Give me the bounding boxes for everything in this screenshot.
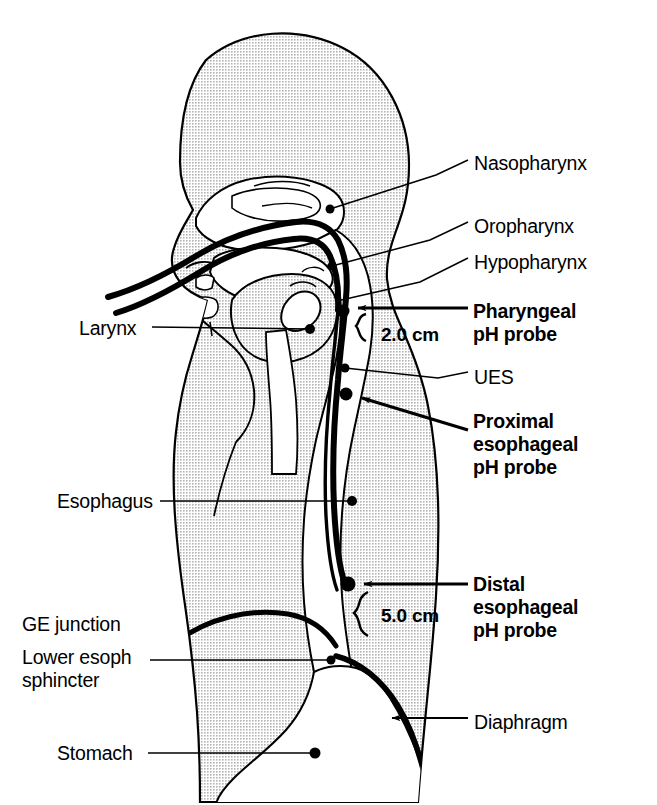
proximal-probe-marker bbox=[340, 388, 353, 401]
label-lower-esoph-sphincter: Lower esoph sphincter bbox=[22, 646, 131, 692]
label-larynx: Larynx bbox=[79, 317, 136, 340]
stomach-dot bbox=[310, 748, 321, 759]
label-distal-esophageal-ph-probe: Distal esophageal pH probe bbox=[473, 573, 578, 642]
esophagus-dot bbox=[347, 496, 357, 506]
label-hypopharynx: Hypopharynx bbox=[474, 251, 587, 274]
label-nasopharynx: Nasopharynx bbox=[474, 152, 587, 175]
label-proximal-esophageal-ph-probe: Proximal esophageal pH probe bbox=[473, 410, 578, 479]
label-esophagus: Esophagus bbox=[57, 490, 153, 513]
diagram-canvas: Nasopharynx Oropharynx Hypopharynx Phary… bbox=[0, 0, 657, 805]
ues-dot bbox=[341, 364, 350, 373]
measurement-2cm: 2.0 cm bbox=[381, 323, 439, 346]
larynx-dot bbox=[305, 324, 315, 334]
label-ues: UES bbox=[474, 366, 514, 389]
label-stomach: Stomach bbox=[57, 742, 133, 765]
oropharynx-dot bbox=[328, 262, 337, 271]
measurement-5cm: 5.0 cm bbox=[381, 604, 439, 627]
label-oropharynx: Oropharynx bbox=[474, 215, 574, 238]
body-outline bbox=[172, 33, 438, 802]
label-pharyngeal-ph-probe: Pharyngeal pH probe bbox=[473, 300, 576, 346]
nasopharynx-dot bbox=[326, 205, 335, 214]
label-ge-junction: GE junction bbox=[22, 613, 121, 636]
pharyngeal-probe-marker bbox=[337, 305, 350, 318]
label-diaphragm: Diaphragm bbox=[474, 711, 568, 734]
les-dot bbox=[327, 656, 336, 665]
distal-probe-marker bbox=[341, 577, 356, 592]
